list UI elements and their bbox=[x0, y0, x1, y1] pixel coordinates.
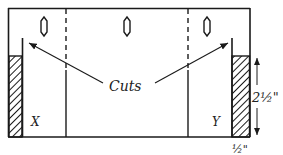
cut-arrows bbox=[29, 43, 228, 83]
height-dimension-label: 2½" bbox=[251, 90, 279, 105]
flap-y-label: Y bbox=[212, 115, 221, 129]
slot-left bbox=[41, 17, 47, 36]
flap-x bbox=[9, 38, 23, 137]
cut-sheet-diagram: Cuts X Y 2½" ½" bbox=[0, 0, 283, 155]
flap-x-label: X bbox=[30, 115, 40, 129]
cuts-label: Cuts bbox=[109, 78, 142, 94]
flap-y bbox=[232, 38, 250, 137]
slot-center bbox=[124, 17, 130, 36]
width-dimension-label: ½" bbox=[232, 143, 248, 155]
slot-right bbox=[204, 17, 210, 36]
